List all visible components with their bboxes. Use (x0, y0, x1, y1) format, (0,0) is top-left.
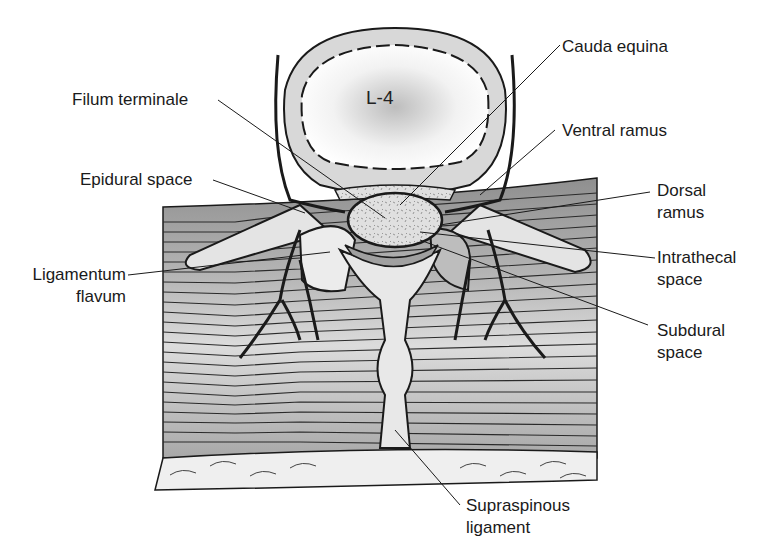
intrathecal-space-line2: space (657, 269, 736, 291)
label-cauda-equina: Cauda equina (562, 36, 668, 58)
supraspinous-ligament-line2: ligament (466, 517, 570, 539)
label-intrathecal-space: Intrathecal space (657, 247, 736, 291)
label-ventral-ramus: Ventral ramus (562, 120, 667, 142)
subdural-space-line1: Subdural (657, 320, 725, 342)
dorsal-ramus-line1: Dorsal (657, 180, 706, 202)
supraspinous-ligament-line1: Supraspinous (466, 495, 570, 517)
label-filum-terminale: Filum terminale (72, 89, 188, 111)
label-ligamentum-flavum: Ligamentum flavum (12, 264, 126, 308)
subcutaneous-fat (155, 450, 597, 490)
dorsal-ramus-line2: ramus (657, 202, 706, 224)
vertebra-label: L-4 (366, 87, 393, 109)
subdural-space-line2: space (657, 342, 725, 364)
intrathecal-space-line1: Intrathecal (657, 247, 736, 269)
label-supraspinous-ligament: Supraspinous ligament (466, 495, 570, 539)
label-subdural-space: Subdural space (657, 320, 725, 364)
ligamentum-flavum-line1: Ligamentum (12, 264, 126, 286)
label-epidural-space: Epidural space (80, 169, 192, 191)
label-dorsal-ramus: Dorsal ramus (657, 180, 706, 224)
ligamentum-flavum-line2: flavum (12, 286, 126, 308)
